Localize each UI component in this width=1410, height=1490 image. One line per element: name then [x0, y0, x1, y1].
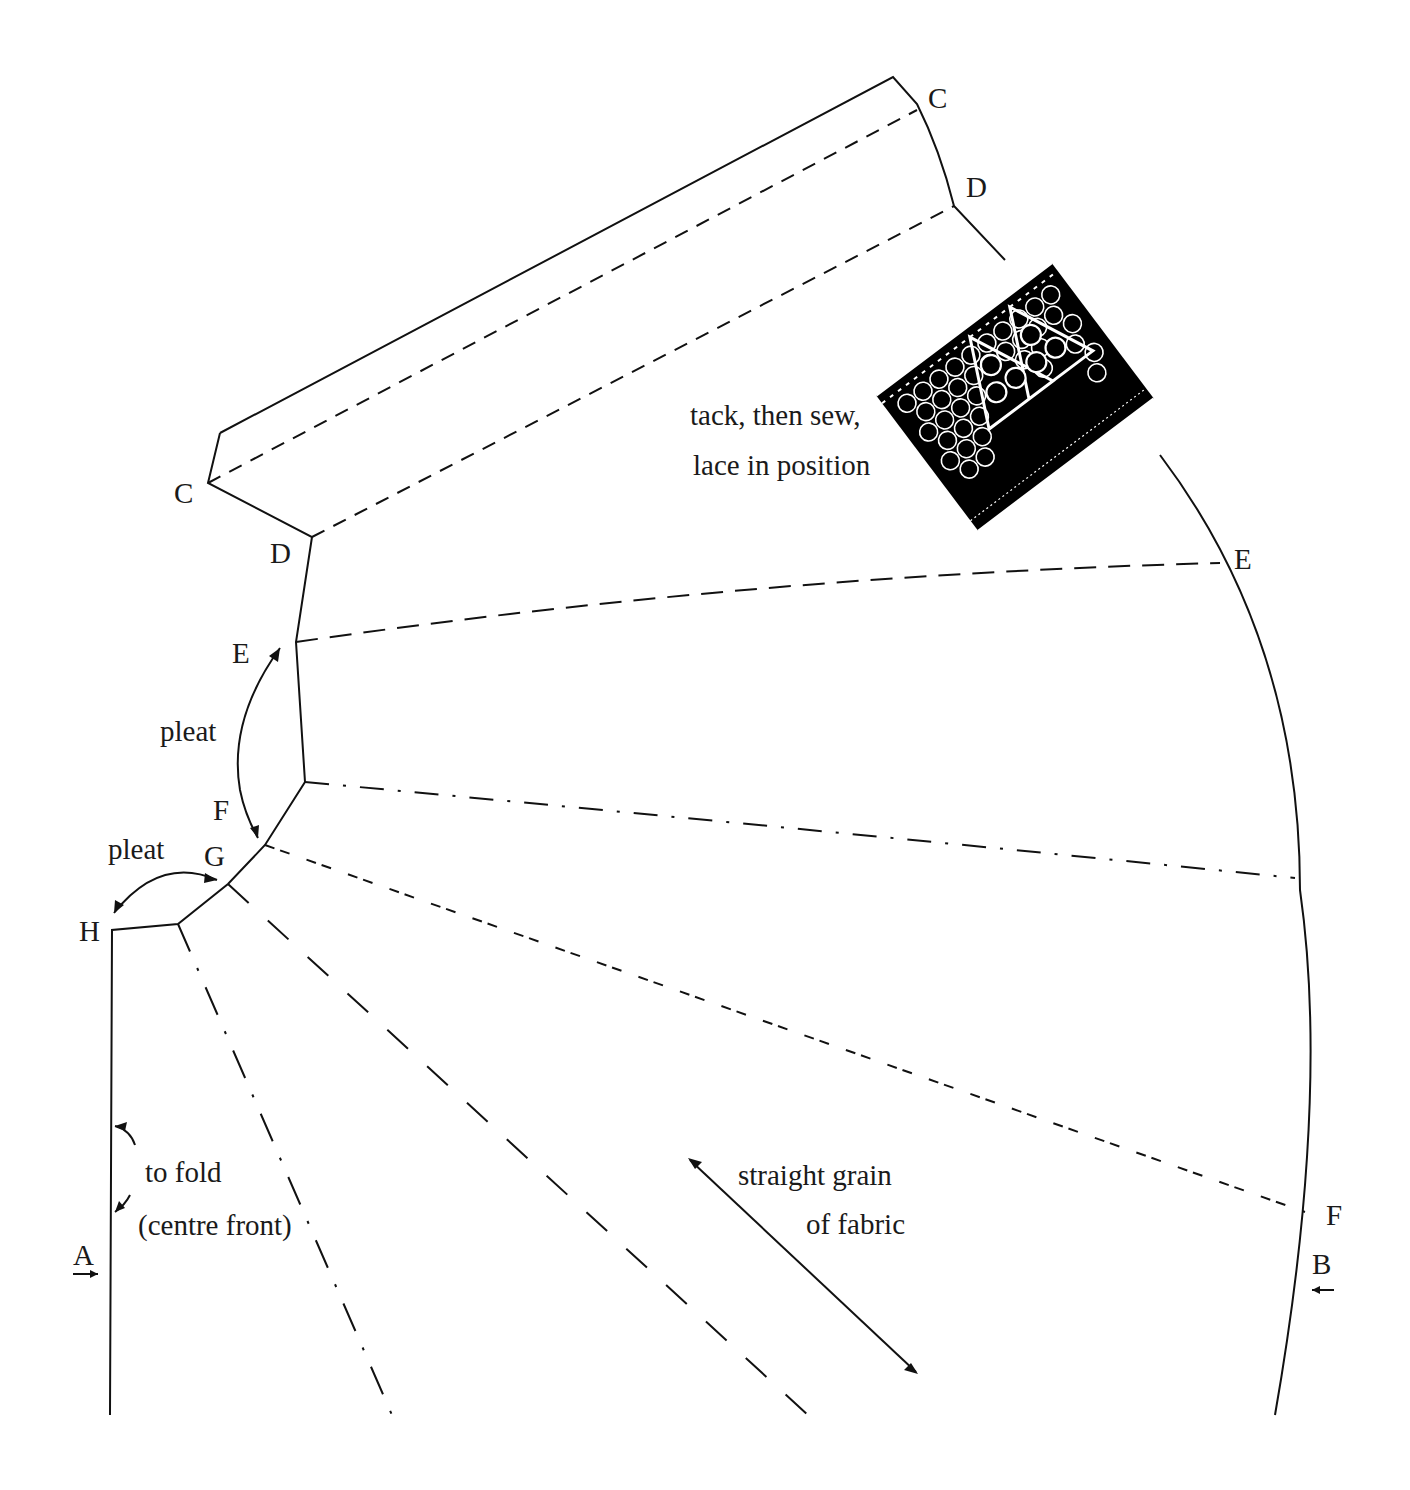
label-e-right: E — [1234, 543, 1252, 575]
grain-label-line1: straight grain — [738, 1159, 892, 1191]
lace-patch — [876, 263, 1154, 531]
label-a: A — [73, 1239, 94, 1271]
pattern-outline-right — [1160, 455, 1311, 1415]
a-marker-arrowhead — [90, 1270, 98, 1278]
pleat-lower-arrow — [114, 872, 217, 913]
g-f-short-dash-line — [265, 845, 1305, 1212]
fold-label-line2: (centre front) — [138, 1209, 292, 1242]
label-f-left: F — [213, 794, 229, 826]
lace-instruction-line2: lace in position — [693, 449, 871, 481]
label-c-top: C — [928, 82, 947, 114]
fold-label-line1: to fold — [145, 1156, 222, 1188]
pleat-upper-arrowheads — [250, 648, 280, 838]
f-dash-dot-line — [305, 782, 1295, 878]
label-d-top: D — [966, 171, 987, 203]
d-d-dashed-line — [312, 206, 954, 537]
pleat-lower-label: pleat — [108, 833, 164, 865]
grain-arrow-line — [690, 1160, 916, 1372]
fold-arrowhead-down — [115, 1201, 125, 1212]
label-b: B — [1312, 1248, 1331, 1280]
pattern-svg: C D C D E E F G H A B F tack, then sew, … — [0, 0, 1410, 1490]
label-f-right: F — [1326, 1199, 1342, 1231]
g-bottom-dashed-line — [228, 884, 808, 1415]
label-e-left: E — [232, 637, 250, 669]
pattern-outline-left — [110, 433, 312, 1415]
grain-label-line2: of fabric — [806, 1208, 905, 1240]
label-c-left: C — [174, 477, 193, 509]
pleat-upper-label: pleat — [160, 715, 216, 747]
label-g: G — [204, 840, 225, 872]
fold-arrowhead-up — [115, 1122, 127, 1131]
label-h: H — [79, 915, 100, 947]
e-e-dashed-line — [296, 563, 1220, 642]
pattern-diagram: C D C D E E F G H A B F tack, then sew, … — [0, 0, 1410, 1490]
label-d-left: D — [270, 537, 291, 569]
pattern-outline-top — [220, 77, 1005, 433]
lace-instruction-line1: tack, then sew, — [690, 399, 860, 431]
pleat-lower-arrowheads — [114, 873, 217, 913]
pleat-upper-arrow — [238, 648, 280, 838]
b-marker-arrowhead — [1312, 1286, 1320, 1294]
